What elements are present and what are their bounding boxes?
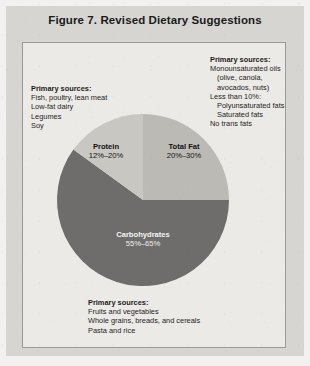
note-carbohydrates-heading: Primary sources: <box>88 298 200 307</box>
note-protein-line: Fish, poultry, lean meat <box>31 93 107 102</box>
slice-label-protein-name: Protein <box>76 142 136 151</box>
note-total-fat-line: (olive, canola, <box>210 73 284 82</box>
note-total-fat-heading: Primary sources: <box>210 55 284 64</box>
note-protein-heading: Primary sources: <box>31 84 107 93</box>
slice-label-total-fat: Total Fat 20%–30% <box>153 142 215 161</box>
slice-label-carbohydrates-value: 55%–65% <box>100 239 186 248</box>
note-carbohydrates-line: Pasta and rice <box>88 326 200 335</box>
note-protein-sources: Primary sources: Fish, poultry, lean mea… <box>31 84 107 130</box>
slice-label-total-fat-value: 20%–30% <box>153 151 215 160</box>
figure-title: Figure 7. Revised Dietary Suggestions <box>0 14 310 26</box>
slice-label-carbohydrates-name: Carbohydrates <box>100 230 186 239</box>
slice-label-protein: Protein 12%–20% <box>76 142 136 161</box>
slice-label-total-fat-name: Total Fat <box>153 142 215 151</box>
note-total-fat-sources: Primary sources: Monounsaturated oils (o… <box>210 55 284 129</box>
note-total-fat-line: avocados, nuts) <box>210 83 284 92</box>
figure-page: Figure 7. Revised Dietary Suggestions Pr… <box>0 0 310 366</box>
note-protein-line: Legumes <box>31 112 107 121</box>
slice-label-carbohydrates: Carbohydrates 55%–65% <box>100 230 186 249</box>
note-protein-line: Low-fat dairy <box>31 102 107 111</box>
note-total-fat-line: No trans fats <box>210 119 284 128</box>
note-carbohydrates-sources: Primary sources: Fruits and vegetables W… <box>88 298 200 335</box>
note-total-fat-line: Polyunsaturated fats <box>210 101 284 110</box>
slice-label-protein-value: 12%–20% <box>76 151 136 160</box>
note-carbohydrates-line: Whole grains, breads, and cereals <box>88 316 200 325</box>
note-protein-line: Soy <box>31 121 107 130</box>
note-total-fat-line: Saturated fats <box>210 110 284 119</box>
note-total-fat-line: Less than 10%: <box>210 92 284 101</box>
note-total-fat-line: Monounsaturated oils <box>210 64 284 73</box>
note-carbohydrates-line: Fruits and vegetables <box>88 307 200 316</box>
